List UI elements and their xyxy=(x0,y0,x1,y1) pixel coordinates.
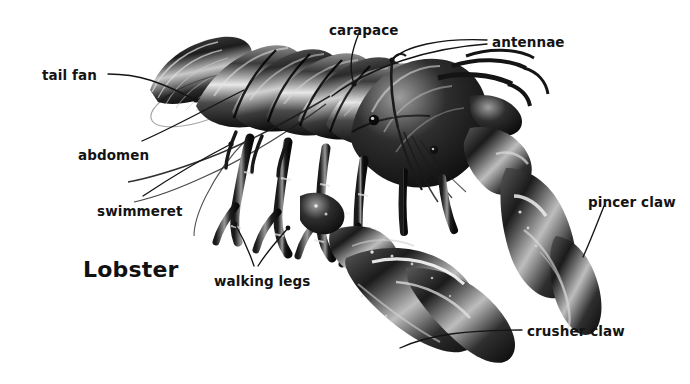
lobster-diagram: tail fan abdomen swimmeret walking legs … xyxy=(0,0,690,384)
leader-walking-legs-a xyxy=(235,224,254,266)
label-swimmeret: swimmeret xyxy=(97,205,183,219)
label-tail-fan: tail fan xyxy=(42,69,97,83)
label-crusher-claw: crusher claw xyxy=(527,325,625,339)
leader-dot-swimmeret xyxy=(228,141,233,146)
label-pincer-claw: pincer claw xyxy=(588,196,676,210)
label-carapace: carapace xyxy=(329,24,399,38)
leader-carapace xyxy=(351,33,359,84)
leader-dot-walking-legs-a xyxy=(233,222,238,227)
leader-tail-fan xyxy=(108,74,196,100)
leader-pincer-claw xyxy=(583,206,604,257)
leader-dot-tail-fan xyxy=(193,97,198,102)
leader-abdomen xyxy=(142,90,244,141)
label-abdomen: abdomen xyxy=(78,149,149,163)
leader-dot-carapace xyxy=(351,81,356,86)
leader-dot-walking-legs-b xyxy=(286,226,291,231)
label-walking-legs: walking legs xyxy=(214,275,310,289)
figure-title: Lobster xyxy=(83,259,179,281)
leader-walking-legs-b xyxy=(258,228,288,266)
leader-swimmeret xyxy=(143,144,231,196)
leader-dot-antennae xyxy=(389,57,394,62)
label-antennae: antennae xyxy=(492,36,565,50)
leader-crusher-claw xyxy=(400,330,522,348)
leader-antennae-2 xyxy=(332,44,487,96)
